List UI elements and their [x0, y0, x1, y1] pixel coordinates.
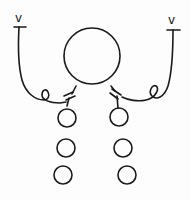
right-chain-circle-2 — [114, 139, 132, 157]
right-arm: v — [110, 13, 180, 184]
right-double-bar-joint — [110, 86, 121, 108]
left-chain-circle-2 — [57, 139, 75, 157]
diagram-svg: v v — [0, 0, 191, 201]
diagram-canvas: v v — [0, 0, 191, 201]
left-arm: v — [14, 11, 76, 184]
left-terminal-v-label: v — [15, 11, 22, 25]
right-terminal-v-label: v — [168, 13, 175, 27]
left-double-bar-joint — [64, 86, 76, 106]
right-chain-circle-1 — [110, 108, 128, 126]
left-linker-curve — [18, 27, 66, 103]
right-chain-circle-3 — [118, 166, 136, 184]
left-chain-circle-1 — [58, 109, 76, 127]
left-chain-circle-3 — [54, 166, 72, 184]
central-circle — [64, 28, 120, 84]
right-linker-curve — [122, 30, 173, 101]
